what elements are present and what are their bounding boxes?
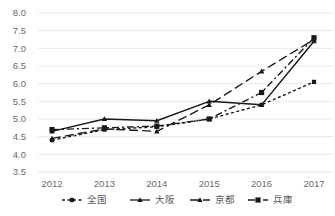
chart-canvas: 3.54.04.55.05.56.06.57.07.58.02012201320… [0,0,335,216]
data-point-marker [102,125,107,130]
data-point-marker [312,80,316,84]
y-axis-tick-label: 4.0 [13,149,26,160]
series-3 [49,37,316,141]
data-point-marker [311,35,316,40]
legend-label: 兵庫 [273,194,293,205]
y-axis-tick-label: 6.0 [13,78,26,89]
y-axis-tick-label: 7.5 [13,25,26,36]
data-point-marker [259,69,264,74]
y-axis-tick-label: 4.5 [13,131,26,142]
y-axis-tick-label: 7.0 [13,43,26,54]
legend-label: 大阪 [155,194,175,205]
x-axis-tick-label: 2014 [146,178,167,189]
x-axis-tick-label: 2017 [303,178,324,189]
y-axis-tick-label: 8.0 [13,7,26,18]
x-axis-tick-label: 2016 [251,178,272,189]
legend-item-3[interactable]: 京都 [190,194,235,205]
legend-marker-sample [255,197,260,202]
legend-item-2[interactable]: 大阪 [130,194,175,205]
y-axis-tick-label: 5.0 [13,113,26,124]
x-axis-tick-label: 2013 [94,178,115,189]
legend-item-1[interactable]: 全国 [62,194,107,205]
data-point-marker [154,123,159,128]
x-axis-tick-label: 2015 [199,178,220,189]
legend-marker-sample [70,198,74,202]
legend-label: 京都 [215,194,235,205]
y-axis-tick-label: 6.5 [13,60,26,71]
y-axis-tick-label: 5.5 [13,96,26,107]
data-point-marker [49,127,54,132]
legend-label: 全国 [87,194,107,205]
legend-item-4[interactable]: 兵庫 [248,194,293,205]
x-axis-tick-label: 2012 [41,178,62,189]
data-point-marker [259,90,264,95]
data-point-marker [207,116,212,121]
line-chart: 3.54.04.55.05.56.06.57.07.58.02012201320… [0,0,335,216]
y-axis-tick-label: 3.5 [13,166,26,177]
